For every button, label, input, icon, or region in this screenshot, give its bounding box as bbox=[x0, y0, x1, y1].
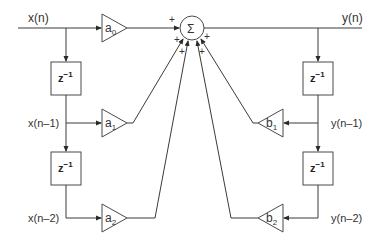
y-n1-label: y(n–1) bbox=[331, 117, 362, 129]
plus-sign-a1: + bbox=[174, 34, 180, 45]
filter-diagram: x(n) a0 Σ + + + + + y(n) z−1 x(n–1) a1 z… bbox=[0, 0, 386, 245]
plus-sign-a2: + bbox=[179, 46, 185, 57]
b1-to-sum-wire bbox=[201, 39, 258, 123]
b2-to-sum-wire bbox=[197, 41, 258, 218]
x-n2-label: x(n–2) bbox=[28, 212, 59, 224]
sigma-symbol: Σ bbox=[187, 22, 194, 36]
x-n1-label: x(n–1) bbox=[28, 117, 59, 129]
input-label: x(n) bbox=[28, 11, 49, 25]
plus-sign-a0: + bbox=[169, 14, 175, 25]
plus-sign-b1: + bbox=[204, 31, 210, 42]
y-n2-label: y(n–2) bbox=[331, 212, 362, 224]
y-n2-wire bbox=[284, 185, 318, 218]
output-label: y(n) bbox=[342, 11, 363, 25]
a2-to-sum-wire bbox=[127, 41, 188, 218]
x-n2-wire bbox=[66, 185, 101, 218]
